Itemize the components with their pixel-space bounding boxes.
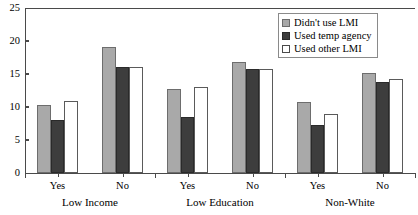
bar (232, 62, 246, 173)
x-axis-tick-label: Yes (310, 180, 325, 191)
x-axis-tick-mark (123, 173, 124, 177)
x-axis-tick-mark (318, 173, 319, 177)
bar (311, 125, 325, 173)
bar (116, 67, 130, 173)
legend: Didn't use LMI Used temp agency Used oth… (278, 13, 378, 58)
bar (259, 69, 273, 173)
bar (64, 101, 78, 173)
x-axis-tick-mark (58, 173, 59, 177)
x-axis-tick-mark (188, 173, 189, 177)
bar (389, 79, 403, 173)
legend-swatch-used-other-lmi (282, 45, 290, 53)
x-axis-group-separator (415, 173, 416, 178)
y-axis-tick-label: 5 (0, 135, 20, 145)
x-axis-group-label: Low Income (62, 196, 118, 208)
bar (376, 82, 390, 173)
legend-item: Used other LMI (282, 42, 372, 55)
bar (324, 114, 338, 173)
legend-item: Didn't use LMI (282, 16, 372, 29)
x-axis-group-label: Low Education (186, 196, 254, 208)
x-axis-group-separator (155, 173, 156, 178)
x-axis-tick-mark (253, 173, 254, 177)
bar (129, 67, 143, 173)
bar (51, 120, 65, 173)
x-axis-tick-mark (383, 173, 384, 177)
bar (297, 102, 311, 173)
x-axis-group-separator (285, 173, 286, 178)
x-axis-tick-label: Yes (50, 180, 65, 191)
bar (102, 47, 116, 173)
bar (246, 69, 260, 173)
x-axis-group-label: Non-White (325, 196, 374, 208)
bar (194, 87, 208, 173)
x-axis-tick-label: No (116, 180, 129, 191)
legend-swatch-didnt-use-lmi (282, 19, 290, 27)
bar (362, 73, 376, 173)
y-axis-tick-label: 10 (0, 102, 20, 112)
bar-chart: 0510152025 YesNoLow IncomeYesNoLow Educa… (0, 0, 418, 215)
legend-swatch-used-temp-agency (282, 32, 290, 40)
legend-label: Used temp agency (294, 30, 372, 41)
y-axis-tick-label: 0 (0, 168, 20, 178)
legend-label: Didn't use LMI (294, 17, 358, 28)
bar (167, 89, 181, 173)
y-axis-tick-label: 20 (0, 36, 20, 46)
x-axis-tick-label: No (376, 180, 389, 191)
legend-label: Used other LMI (294, 43, 362, 54)
x-axis-tick-label: No (246, 180, 259, 191)
y-axis-tick-label: 15 (0, 69, 20, 79)
bar (181, 117, 195, 173)
x-axis-tick-label: Yes (180, 180, 195, 191)
y-axis-tick-label: 25 (0, 3, 20, 13)
legend-item: Used temp agency (282, 29, 372, 42)
bar (37, 105, 51, 173)
x-axis-group-separator (25, 173, 26, 178)
